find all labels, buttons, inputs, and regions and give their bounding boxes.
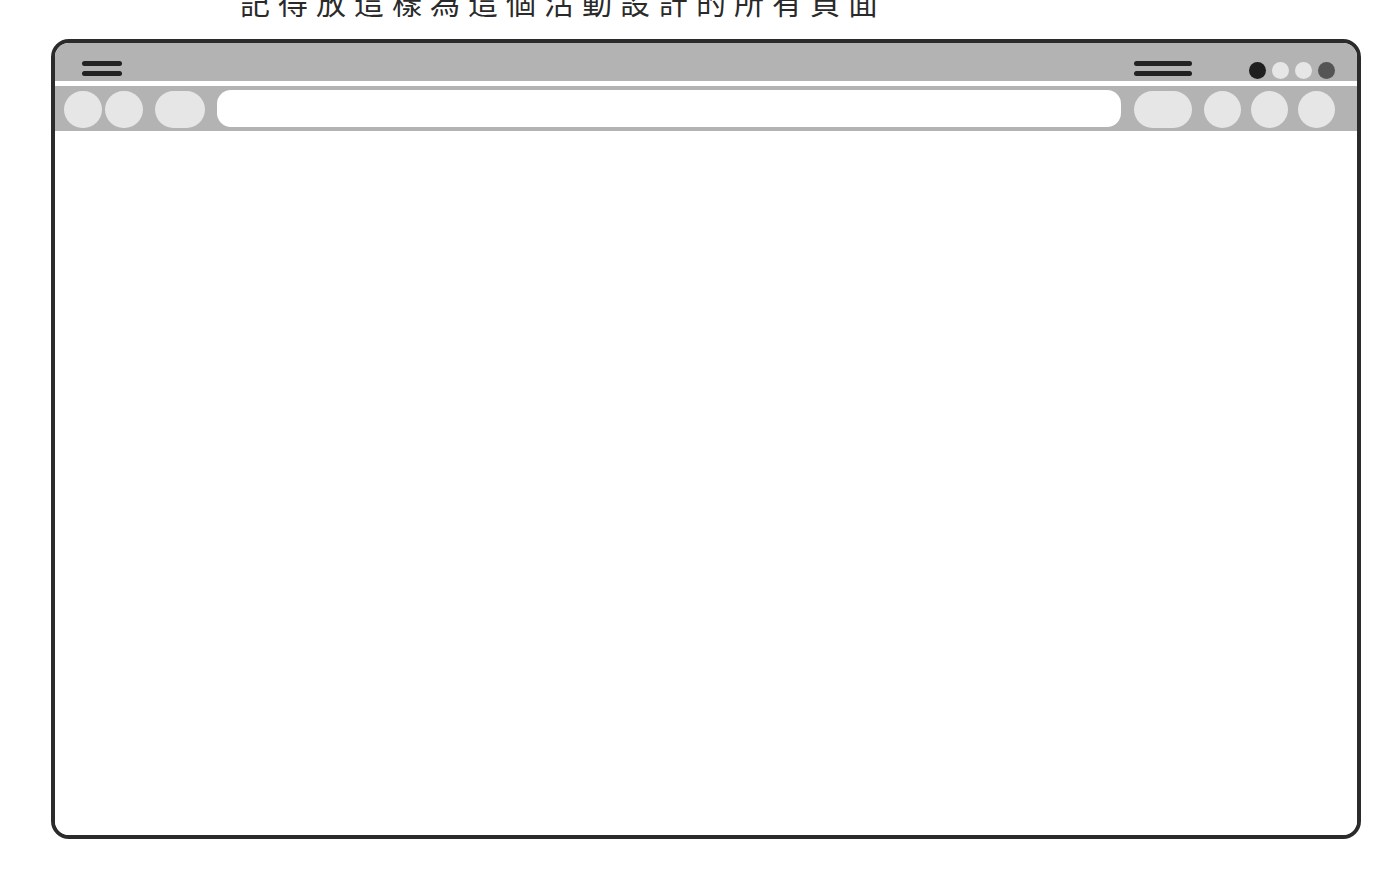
window-control-dot-3[interactable]	[1295, 62, 1312, 79]
page-content-area	[55, 131, 1357, 835]
hamburger-icon-left[interactable]	[82, 61, 122, 77]
reload-button[interactable]	[155, 91, 205, 128]
back-button[interactable]	[64, 91, 102, 128]
window-control-dot-4[interactable]	[1318, 62, 1335, 79]
settings-button[interactable]	[1298, 91, 1335, 128]
toolbar	[55, 86, 1357, 131]
extension-button[interactable]	[1134, 91, 1192, 128]
browser-window	[51, 39, 1361, 839]
address-bar-input[interactable]	[217, 90, 1121, 127]
hamburger-icon-right[interactable]	[1134, 61, 1192, 77]
bookmark-button[interactable]	[1204, 91, 1241, 128]
window-control-dot-2[interactable]	[1272, 62, 1289, 79]
forward-button[interactable]	[105, 91, 143, 128]
profile-button[interactable]	[1251, 91, 1288, 128]
page-caption: 記得放這樣為這個活動設計的所有頁面	[240, 0, 1120, 24]
window-control-dot-1[interactable]	[1249, 62, 1266, 79]
title-bar	[55, 43, 1357, 81]
